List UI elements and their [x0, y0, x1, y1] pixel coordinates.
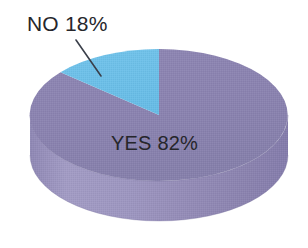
slice-label-yes: YES 82%	[111, 132, 198, 155]
slice-label-no: NO 18%	[27, 12, 108, 36]
pie-chart-graphic	[0, 0, 308, 248]
pie-chart-figure: NO 18% YES 82%	[0, 0, 308, 248]
